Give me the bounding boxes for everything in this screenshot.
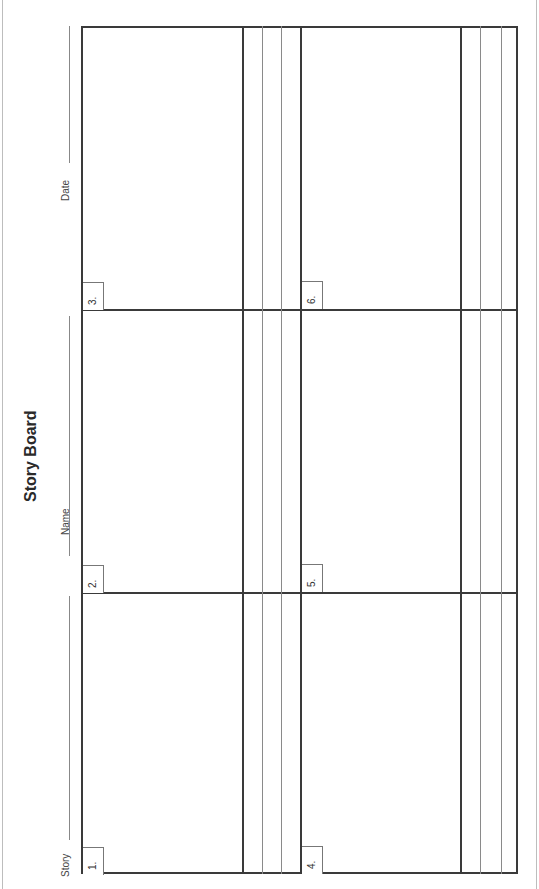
story-field-line[interactable] xyxy=(69,596,70,840)
panel-number-4: 4. xyxy=(306,861,317,869)
caption-line-a1[interactable] xyxy=(262,26,263,874)
panel-number-3: 3. xyxy=(87,297,98,305)
panel-number-6: 6. xyxy=(306,296,317,304)
caption-line-b1[interactable] xyxy=(480,26,481,874)
panel-1[interactable] xyxy=(83,594,241,872)
panel-number-box-6: 6. xyxy=(302,281,323,309)
page-title: Story Board xyxy=(22,410,40,502)
panel-4[interactable] xyxy=(302,594,459,872)
story-label: Story xyxy=(60,854,71,877)
caption-line-a2[interactable] xyxy=(281,26,282,874)
panel-number-box-4: 4. xyxy=(302,846,323,874)
panel-number-1: 1. xyxy=(87,862,98,870)
panel-2[interactable] xyxy=(83,311,241,591)
date-label: Date xyxy=(60,180,71,201)
panel-number-2: 2. xyxy=(87,580,98,588)
panel-6[interactable] xyxy=(302,28,459,308)
panel-number-box-2: 2. xyxy=(83,565,104,593)
panel-3[interactable] xyxy=(83,28,241,308)
page-edge-left xyxy=(2,0,3,889)
picture-edge-a xyxy=(242,26,244,874)
name-field-line[interactable] xyxy=(69,316,70,556)
panel-number-box-1: 1. xyxy=(83,847,104,875)
caption-line-b2[interactable] xyxy=(501,26,502,874)
date-field-line[interactable] xyxy=(69,26,70,163)
picture-edge-b xyxy=(460,26,462,874)
panel-5[interactable] xyxy=(302,311,459,591)
panel-number-5: 5. xyxy=(306,579,317,587)
page-edge-right xyxy=(536,0,537,889)
panel-number-box-5: 5. xyxy=(302,564,323,592)
panel-number-box-3: 3. xyxy=(83,282,104,310)
